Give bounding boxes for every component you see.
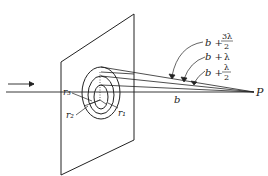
label-path3-prefix: b + xyxy=(205,37,223,48)
arrow-lambda xyxy=(184,57,205,79)
path-rays xyxy=(101,67,254,92)
label-path2-val: λ xyxy=(224,52,230,62)
label-path2-prefix: b + xyxy=(205,51,223,62)
r2-leader xyxy=(76,106,88,115)
label-b: b xyxy=(174,94,180,105)
arrow-lambda-half xyxy=(194,71,205,83)
label-path1-prefix: b + xyxy=(205,67,223,78)
fresnel-diagram: r₃ r₂ r₁ b P b + 3λ 2 b + λ b + λ 2 xyxy=(0,0,268,176)
incident-light-arrow xyxy=(6,82,60,93)
label-r1: r₁ xyxy=(118,108,126,118)
label-r2: r₂ xyxy=(66,110,74,120)
fresnel-zones xyxy=(82,67,120,119)
label-path3-num: 3λ xyxy=(222,32,232,41)
label-path1-num: λ xyxy=(224,63,229,72)
zone-ring-2 xyxy=(88,76,114,114)
label-r3: r₃ xyxy=(63,87,71,97)
zone-ring-1 xyxy=(94,85,108,109)
label-path1-den: 2 xyxy=(224,73,229,82)
label-arrows xyxy=(169,42,205,85)
label-path3-den: 2 xyxy=(224,42,229,51)
aperture-plate xyxy=(61,14,134,175)
label-P: P xyxy=(255,86,264,99)
ray-lambda xyxy=(101,76,254,92)
